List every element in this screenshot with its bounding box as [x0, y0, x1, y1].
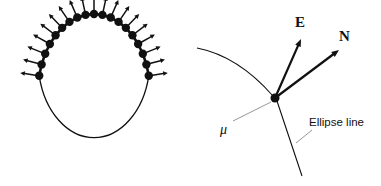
normal-arrow-14-shaft: [134, 26, 144, 33]
ellipse-node: [122, 24, 130, 32]
normal-arrow-4-shaft: [44, 26, 54, 33]
vector-label-e: E: [295, 14, 305, 31]
normal-arrow-5-shaft: [52, 17, 60, 26]
normal-arrow-3-shaft: [37, 37, 48, 43]
normal-arrow-7-shaft: [71, 4, 76, 15]
normal-arrow-17-shaft: [149, 61, 161, 64]
vector-E-head: [295, 39, 301, 47]
mu-leader-line: [233, 102, 271, 121]
ellipse-bottom-arc: [39, 76, 149, 138]
ellipse-node: [145, 72, 153, 80]
scientific-figure: E N μ Ellipse line: [0, 0, 381, 186]
ellipse-node: [46, 40, 54, 48]
ellipse-node: [37, 60, 45, 68]
mu-label: μ: [220, 122, 227, 138]
vector-arrows: [275, 39, 339, 98]
ellipse-node: [65, 18, 73, 26]
ellipse-line-leader: [296, 130, 312, 143]
normal-arrow-8-shaft: [83, 1, 86, 13]
normal-arrow-1-head: [23, 58, 28, 62]
normal-arrow-13-shaft: [128, 17, 136, 26]
node-detail-panel: [197, 39, 339, 176]
normal-arrow-17-head: [160, 58, 165, 62]
normal-arrow-11-shaft: [112, 4, 117, 15]
ellipse-panel: [20, 0, 168, 138]
normal-arrow-0-shaft: [25, 74, 37, 76]
normal-arrow-15-shaft: [140, 37, 151, 43]
ellipse-node: [90, 10, 98, 18]
ellipse-line-label: Ellipse line: [309, 116, 364, 128]
ellipse-line-arc-upper: [197, 48, 273, 96]
normal-arrow-6-shaft: [61, 10, 68, 20]
normal-arrow-18-head: [163, 71, 168, 76]
ellipse-node: [81, 11, 89, 19]
normal-arrow-16-shaft: [145, 48, 156, 53]
normal-arrow-18-shaft: [151, 74, 163, 76]
ellipse-node: [73, 13, 81, 21]
ellipse-node: [98, 11, 106, 19]
ellipse-nodes: [35, 10, 153, 80]
ellipse-node: [41, 50, 49, 58]
normal-arrow-1-shaft: [28, 61, 40, 64]
ellipse-node: [128, 31, 136, 39]
normal-arrow-0-head: [20, 71, 25, 76]
ellipse-line-arc-lower: [277, 101, 302, 176]
ellipse-node: [114, 18, 122, 26]
ellipse-polyline: [39, 14, 149, 76]
ellipse-node: [35, 72, 43, 80]
ellipse-node: [139, 50, 147, 58]
normal-arrow-10-shaft: [103, 1, 106, 13]
ellipse-node: [58, 24, 66, 32]
ellipse-node: [51, 31, 59, 39]
ellipse-node: [106, 13, 114, 21]
normal-arrow-12-shaft: [120, 10, 127, 20]
normal-arrow-2-shaft: [32, 48, 43, 53]
detail-node-dot: [271, 94, 280, 103]
figure-canvas: [0, 0, 381, 186]
ellipse-node: [134, 40, 142, 48]
ellipse-node: [142, 60, 150, 68]
vector-label-n: N: [339, 28, 350, 45]
